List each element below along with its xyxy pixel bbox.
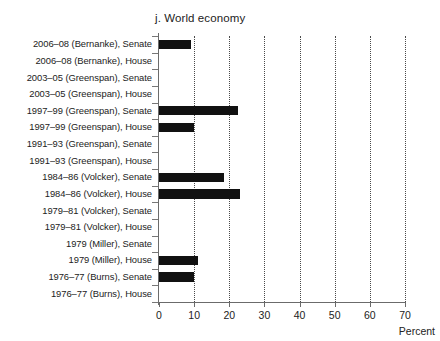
- x-axis-label: 20: [223, 309, 235, 321]
- y-tick-mark: [152, 119, 158, 120]
- x-tick-mark-10: [194, 302, 195, 307]
- y-axis-label: 2003–05 (Greenspan), House: [4, 88, 152, 99]
- y-tick-mark: [152, 152, 158, 153]
- y-axis-label: 1979 (Miller), House: [4, 254, 152, 265]
- bar-row: [159, 136, 405, 153]
- x-tick-mark-70: [405, 302, 406, 307]
- y-axis-label: 2003–05 (Greenspan), Senate: [4, 72, 152, 83]
- x-tick-mark-40: [300, 302, 301, 307]
- x-axis-label: 40: [294, 309, 306, 321]
- y-axis-label: 1997–99 (Greenspan), House: [4, 121, 152, 132]
- bar-row: [159, 86, 405, 103]
- y-tick-mark: [152, 103, 158, 104]
- x-axis-title: Percent: [330, 325, 435, 337]
- y-axis-label: 2006–08 (Bernanke), Senate: [4, 38, 152, 49]
- bar-row: [159, 69, 405, 86]
- x-axis-label: 30: [259, 309, 271, 321]
- y-axis-label: 1979–81 (Volcker), House: [4, 221, 152, 232]
- y-tick-mark: [152, 86, 158, 87]
- bar-row: [159, 169, 405, 186]
- y-tick-mark: [152, 219, 158, 220]
- y-axis-label: 1997–99 (Greenspan), Senate: [4, 105, 152, 116]
- bar-row: [159, 219, 405, 236]
- y-tick-mark: [152, 236, 158, 237]
- y-axis-label: 1984–86 (Volcker), House: [4, 188, 152, 199]
- bar-row: [159, 152, 405, 169]
- bar: [159, 123, 194, 132]
- y-tick-mark: [152, 202, 158, 203]
- bar-row: [159, 103, 405, 120]
- x-tick-mark-20: [229, 302, 230, 307]
- bar: [159, 40, 191, 49]
- y-axis-label: 1991–93 (Greenspan), Senate: [4, 138, 152, 149]
- bar-row: [159, 285, 405, 302]
- y-tick-mark: [152, 136, 158, 137]
- y-axis-label: 1984–86 (Volcker), Senate: [4, 171, 152, 182]
- y-tick-mark: [152, 269, 158, 270]
- x-tick-mark-60: [370, 302, 371, 307]
- bar: [159, 256, 198, 265]
- bar: [159, 189, 240, 198]
- x-tick-mark-30: [264, 302, 265, 307]
- x-axis-label: 10: [188, 309, 200, 321]
- bar-row: [159, 53, 405, 70]
- bar-row: [159, 202, 405, 219]
- gridline-70: [405, 36, 406, 302]
- y-axis-label: 2006–08 (Bernanke), House: [4, 55, 152, 66]
- bar-row: [159, 269, 405, 286]
- x-tick-mark-50: [335, 302, 336, 307]
- y-axis-label: 1979–81 (Volcker), Senate: [4, 205, 152, 216]
- y-axis-tick-labels: 2006–08 (Bernanke), Senate2006–08 (Berna…: [2, 36, 152, 302]
- y-tick-mark: [152, 302, 158, 303]
- bar-row: [159, 36, 405, 53]
- chart-figure: j. World economy 2006–08 (Bernanke), Sen…: [0, 0, 440, 341]
- bar: [159, 106, 238, 115]
- y-axis-label: 1991–93 (Greenspan), House: [4, 155, 152, 166]
- y-tick-mark: [152, 252, 158, 253]
- x-axis-label: 0: [156, 309, 162, 321]
- plot-area: [159, 36, 405, 302]
- y-tick-mark: [152, 285, 158, 286]
- y-tick-mark: [152, 69, 158, 70]
- bar-row: [159, 236, 405, 253]
- bar: [159, 272, 194, 281]
- bar-row: [159, 186, 405, 203]
- x-axis-label: 70: [399, 309, 411, 321]
- bar: [159, 173, 224, 182]
- y-axis-label: 1976–77 (Burns), House: [4, 288, 152, 299]
- x-axis-label: 50: [329, 309, 341, 321]
- chart-title: j. World economy: [155, 12, 415, 24]
- y-axis-label: 1976–77 (Burns), Senate: [4, 271, 152, 282]
- bar-row: [159, 252, 405, 269]
- x-axis-label: 60: [364, 309, 376, 321]
- y-tick-mark: [152, 186, 158, 187]
- y-tick-mark: [152, 169, 158, 170]
- y-tick-mark: [152, 36, 158, 37]
- y-axis-label: 1979 (Miller), Senate: [4, 238, 152, 249]
- y-tick-mark: [152, 53, 158, 54]
- bar-row: [159, 119, 405, 136]
- x-tick-mark-0: [159, 302, 160, 307]
